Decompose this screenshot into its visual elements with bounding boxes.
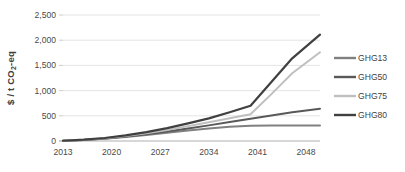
x-tick-label: 2048 bbox=[297, 147, 316, 157]
y-axis-tick-labels: 05001,0001,5002,0002,500 bbox=[34, 10, 56, 146]
y-axis-title: $ / t CO2-eq bbox=[5, 51, 17, 105]
line-chart: 05001,0001,5002,0002,500 201320202027203… bbox=[0, 0, 405, 172]
x-tick-label: 2020 bbox=[102, 147, 121, 157]
x-tick-label: 2041 bbox=[248, 147, 267, 157]
x-tick-label: 2013 bbox=[53, 147, 72, 157]
legend-label: GHG75 bbox=[358, 91, 387, 101]
legend-label: GHG80 bbox=[358, 110, 387, 120]
y-tick-label: 0 bbox=[51, 136, 56, 146]
y-tickmarks bbox=[59, 15, 63, 141]
chart-canvas: 05001,0001,5002,0002,500 201320202027203… bbox=[0, 0, 405, 172]
legend-item-ghg75[interactable]: GHG75 bbox=[334, 91, 387, 101]
y-tick-label: 500 bbox=[42, 111, 57, 121]
legend-item-ghg50[interactable]: GHG50 bbox=[334, 72, 387, 82]
chart-legend: GHG13GHG50GHG75GHG80 bbox=[334, 53, 387, 120]
y-tick-label: 2,000 bbox=[34, 35, 56, 45]
y-gridlines bbox=[63, 15, 320, 116]
x-axis-tick-labels: 201320202027203420412048 bbox=[53, 147, 315, 157]
legend-item-ghg13[interactable]: GHG13 bbox=[334, 53, 387, 63]
legend-item-ghg80[interactable]: GHG80 bbox=[334, 110, 387, 120]
data-series-group bbox=[63, 35, 320, 141]
legend-label: GHG50 bbox=[358, 72, 387, 82]
y-tick-label: 2,500 bbox=[34, 10, 56, 20]
x-tick-label: 2034 bbox=[199, 147, 218, 157]
y-tick-label: 1,500 bbox=[34, 60, 56, 70]
x-tick-label: 2027 bbox=[151, 147, 170, 157]
legend-label: GHG13 bbox=[358, 53, 387, 63]
y-tick-label: 1,000 bbox=[34, 86, 56, 96]
